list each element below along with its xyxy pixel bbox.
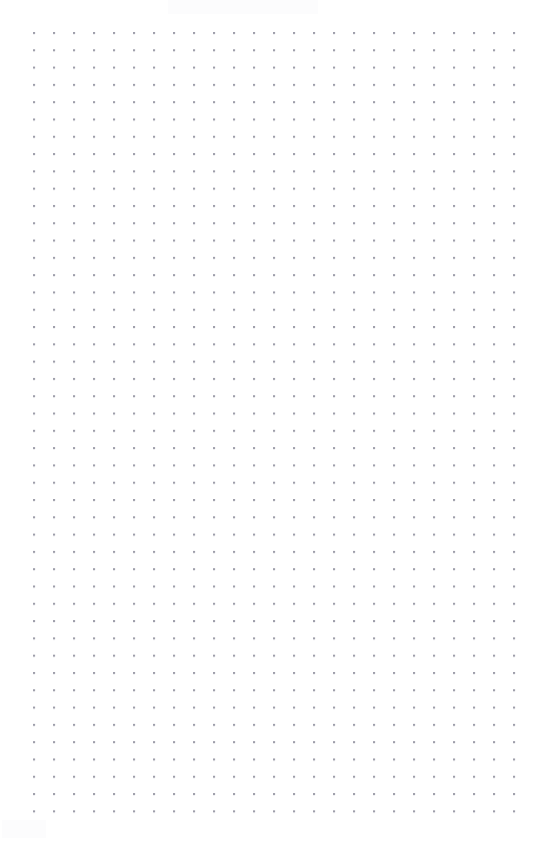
canvas-content-layer[interactable] [0, 0, 543, 841]
dot-grid-canvas[interactable] [0, 0, 543, 841]
